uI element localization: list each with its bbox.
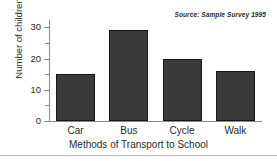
y-axis-line xyxy=(49,20,50,122)
bottom-divider xyxy=(0,155,277,156)
y-axis-major-tick: 30 xyxy=(44,27,49,28)
y-axis-title: Number of children xyxy=(13,0,24,87)
y-axis-major-tick: 10 xyxy=(44,90,49,91)
x-axis-tick-label-car: Car xyxy=(49,125,102,136)
x-axis-tick-label-bus: Bus xyxy=(102,125,155,136)
y-axis-tick-label: 10 xyxy=(30,84,41,95)
source-annotation: Source: Sample Survey 1995 xyxy=(175,11,266,18)
y-axis-major-tick: 20 xyxy=(44,59,49,60)
y-axis-minor-tick xyxy=(45,105,49,106)
y-axis-tick-label: 0 xyxy=(36,115,41,126)
x-axis-line xyxy=(48,121,262,122)
y-axis-minor-tick xyxy=(45,74,49,75)
bar-bus xyxy=(109,30,148,121)
x-axis-title: Methods of Transport to School xyxy=(0,139,277,150)
plot-area: 0102030CarBusCycleWalk xyxy=(49,22,262,122)
bar-chart-figure: Source: Sample Survey 1995 Number of chi… xyxy=(0,0,277,161)
y-axis-tick-label: 30 xyxy=(30,21,41,32)
bar-walk xyxy=(216,71,255,121)
y-axis-major-tick: 0 xyxy=(44,121,49,122)
y-axis-minor-tick xyxy=(45,43,49,44)
y-axis-tick-label: 20 xyxy=(30,53,41,64)
bar-car xyxy=(56,74,95,121)
bar-cycle xyxy=(163,59,202,122)
x-axis-tick-label-cycle: Cycle xyxy=(156,125,209,136)
x-axis-tick-label-walk: Walk xyxy=(209,125,262,136)
